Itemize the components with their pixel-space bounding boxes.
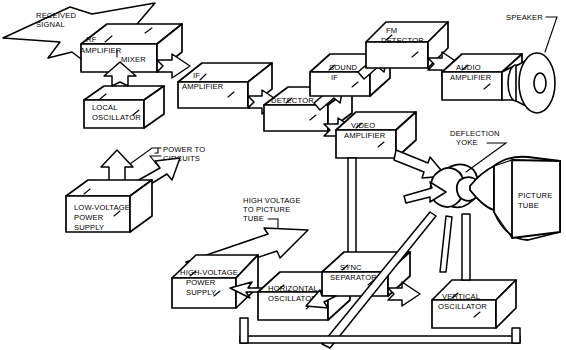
speaker-leader: [545, 17, 557, 52]
rf-amplifier-label-line2: AMPLIFIER: [80, 46, 122, 55]
deflection-yoke-label-line2: YOKE: [456, 138, 478, 147]
local-oscillator-label-line2: OSCILLATOR: [92, 113, 141, 122]
television-receiver-block-diagram: RECEIVED SIGNAL RF AMPLIFIER MIXER LOCAL…: [0, 0, 566, 350]
rf-amplifier-label-line1: RF: [86, 35, 97, 44]
if-amplifier-label-line1: IF: [193, 71, 200, 80]
high-voltage-power-supply-label-line2: POWER: [186, 278, 216, 287]
audio-amplifier-label-line1: AUDIO: [456, 63, 481, 72]
low-voltage-power-supply-label-line2: POWER: [74, 213, 104, 222]
link-bottom-riser-left: [240, 318, 248, 343]
sync-separator-label-line1: SYNC: [340, 263, 362, 272]
hv-to-picture-tube-label-line1: HIGH VOLTAGE: [243, 196, 301, 205]
power-to-circuits-label-line1: POWER TO: [163, 145, 205, 154]
fm-detector-label-line1: FM: [386, 26, 397, 35]
speaker-label: SPEAKER: [506, 13, 543, 22]
mixer-label: MIXER: [121, 55, 146, 64]
picture-tube-label-line1: PICTURE: [518, 191, 552, 200]
sound-if-label-line1: SOUND: [329, 63, 358, 72]
high-voltage-power-supply-label-line1: HIGH-VOLTAGE: [180, 268, 238, 277]
hv-to-picture-tube-label-line2: TO PICTURE: [243, 205, 290, 214]
link-horizontal-oscillator-to-yoke-a: [440, 216, 452, 272]
power-to-circuits-leader-2: [155, 148, 158, 153]
vertical-oscillator-label-line2: OSCILLATOR: [438, 302, 487, 311]
low-voltage-power-supply-label-line1: LOW-VOLTAGE: [74, 203, 130, 212]
received-signal-label-line1: RECEIVED: [36, 11, 76, 20]
hv-to-picture-tube-label-line3: TUBE: [243, 214, 264, 223]
audio-amplifier-label-line2: AMPLIFIER: [450, 73, 492, 82]
high-voltage-power-supply-label-line3: SUPPLY: [186, 288, 216, 297]
vertical-oscillator-label-line1: VERTICAL: [442, 292, 480, 301]
sound-if-label-line2: IF: [331, 73, 338, 82]
link-video-amplifier-to-sync-separator: [348, 158, 356, 258]
picture-tube-label-line2: TUBE: [518, 201, 539, 210]
local-oscillator-label-line1: LOCAL: [92, 103, 118, 112]
if-amplifier-label-line2: AMPLIFIER: [182, 82, 224, 91]
video-amplifier-label-line1: VIDEO: [351, 121, 375, 130]
low-voltage-power-supply-label-line3: SUPPLY: [74, 223, 104, 232]
fm-detector-label-line2: DETECTOR: [381, 36, 424, 45]
deflection-yoke-label-line1: DEFLECTION: [450, 129, 500, 138]
video-amplifier-label-line2: AMPLIFIER: [344, 131, 386, 140]
diagram-canvas: RECEIVED SIGNAL RF AMPLIFIER MIXER LOCAL…: [0, 0, 566, 350]
detector-label: DETECTOR: [271, 96, 314, 105]
link-bottom-bar: [240, 336, 520, 343]
sync-separator-label-line2: SEPARATOR: [330, 273, 377, 282]
link-bottom-riser-right: [512, 328, 520, 343]
received-signal-label-line2: SIGNAL: [36, 20, 65, 29]
link-vertical-oscillator-to-yoke: [462, 214, 470, 280]
horizontal-oscillator-label-line1: HORIZONTAL: [268, 284, 318, 293]
